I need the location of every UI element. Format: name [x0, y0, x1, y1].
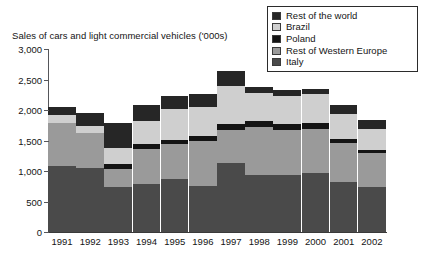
y-tick-label: 1,000: [2, 166, 42, 177]
bar-segment-rest-of-the-world: [330, 105, 358, 114]
legend-label-rest-of-the-world: Rest of the world: [286, 11, 357, 21]
x-tick-label: 1992: [76, 236, 104, 247]
bar-segment-italy: [48, 166, 76, 232]
bar-1992: [76, 49, 104, 232]
y-tick-mark: [44, 49, 49, 50]
bar-segment-rest-of-the-world: [104, 123, 132, 148]
chart-title: Sales of cars and light commercial vehic…: [12, 30, 228, 41]
x-tick-label: 2000: [302, 236, 330, 247]
bar-segment-brazil: [104, 148, 132, 164]
bar-segment-rest-of-western-europe: [48, 123, 76, 166]
bar-segment-brazil: [161, 109, 189, 140]
bar-segment-rest-of-western-europe: [273, 130, 301, 175]
bar-segment-italy: [273, 175, 301, 232]
bar-segment-brazil: [302, 94, 330, 123]
bar-1994: [133, 49, 161, 232]
x-axis-line: [48, 232, 387, 233]
bar-segment-rest-of-the-world: [161, 96, 189, 109]
x-tick-label: 1995: [161, 236, 189, 247]
bar-segment-rest-of-the-world: [189, 94, 217, 107]
bar-segment-rest-of-the-world: [76, 113, 104, 126]
y-tick-label: 1,500: [2, 136, 42, 147]
y-tick-mark: [44, 202, 49, 203]
bar-segment-brazil: [76, 126, 104, 133]
bar-segment-italy: [217, 163, 245, 232]
bar-segment-rest-of-the-world: [245, 87, 273, 93]
legend-item-rest-of-the-world: Rest of the world: [272, 10, 413, 22]
bar-segment-rest-of-the-world: [302, 89, 330, 94]
bar-segment-rest-of-the-world: [133, 105, 161, 121]
bar-segment-poland: [358, 150, 386, 153]
bar-segment-italy: [189, 186, 217, 232]
bar-2000: [302, 49, 330, 232]
y-tick-mark: [44, 110, 49, 111]
bar-segment-poland: [104, 164, 132, 169]
y-tick-label: 3,000: [2, 44, 42, 55]
bar-segment-brazil: [273, 96, 301, 124]
bar-1995: [161, 49, 189, 232]
bar-segment-italy: [76, 168, 104, 232]
bar-segment-italy: [358, 187, 386, 232]
bar-segment-rest-of-western-europe: [161, 144, 189, 179]
bar-segment-brazil: [189, 107, 217, 136]
x-tick-label: 1993: [104, 236, 132, 247]
y-tick-mark: [44, 232, 49, 233]
plot-area: [48, 49, 386, 232]
bar-1997: [217, 49, 245, 232]
bar-segment-brazil: [133, 121, 161, 144]
x-tick-label: 1999: [273, 236, 301, 247]
bar-segment-poland: [161, 140, 189, 145]
bar-segment-rest-of-the-world: [217, 71, 245, 85]
bar-1998: [245, 49, 273, 232]
bar-segment-rest-of-western-europe: [245, 127, 273, 174]
bar-segment-poland: [217, 124, 245, 130]
x-tick-label: 1997: [217, 236, 245, 247]
bar-segment-brazil: [330, 114, 358, 140]
bar-segment-rest-of-the-world: [358, 120, 386, 129]
bar-1991: [48, 49, 76, 232]
x-tick-label: 2002: [358, 236, 386, 247]
bar-segment-rest-of-western-europe: [302, 129, 330, 173]
bar-2002: [358, 49, 386, 232]
x-tick-label: 2001: [330, 236, 358, 247]
x-tick-label: 1996: [189, 236, 217, 247]
bar-1999: [273, 49, 301, 232]
y-tick-label: 500: [2, 197, 42, 208]
bar-segment-rest-of-western-europe: [104, 169, 132, 187]
bar-segment-rest-of-the-world: [48, 107, 76, 115]
bar-segment-brazil: [245, 93, 273, 121]
x-tick-label: 1998: [245, 236, 273, 247]
bar-segment-poland: [133, 144, 161, 149]
bar-segment-brazil: [48, 115, 76, 124]
bar-segment-poland: [273, 124, 301, 130]
bar-segment-rest-of-western-europe: [217, 130, 245, 162]
bar-segment-italy: [330, 182, 358, 232]
bar-segment-poland: [302, 123, 330, 129]
x-axis-labels: 1991199219931994199519961997199819992000…: [48, 236, 386, 252]
y-tick-mark: [44, 171, 49, 172]
y-tick-label: 2,000: [2, 105, 42, 116]
bar-segment-rest-of-western-europe: [330, 143, 358, 182]
stacked-bar-chart: Sales of cars and light commercial vehic…: [0, 0, 425, 267]
bar-1996: [189, 49, 217, 232]
bar-segment-rest-of-western-europe: [358, 153, 386, 187]
y-tick-label: 2,500: [2, 75, 42, 86]
bar-segment-rest-of-the-world: [273, 90, 301, 96]
x-tick-label: 1994: [133, 236, 161, 247]
bar-segment-poland: [245, 121, 273, 127]
bar-segment-rest-of-western-europe: [76, 133, 104, 168]
bar-segment-rest-of-western-europe: [189, 141, 217, 186]
bar-segment-italy: [245, 175, 273, 232]
bar-1993: [104, 49, 132, 232]
bar-segment-italy: [133, 184, 161, 232]
y-tick-mark: [44, 80, 49, 81]
bar-2001: [330, 49, 358, 232]
bar-segment-brazil: [358, 129, 386, 150]
y-tick-label: 0: [2, 227, 42, 238]
legend-label-brazil: Brazil: [286, 22, 310, 32]
legend-label-poland: Poland: [286, 34, 316, 44]
bar-segment-rest-of-western-europe: [133, 149, 161, 184]
y-axis-labels: 05001,0001,5002,0002,5003,000: [0, 0, 42, 267]
bar-segment-brazil: [217, 86, 245, 124]
bar-segment-poland: [189, 136, 217, 141]
